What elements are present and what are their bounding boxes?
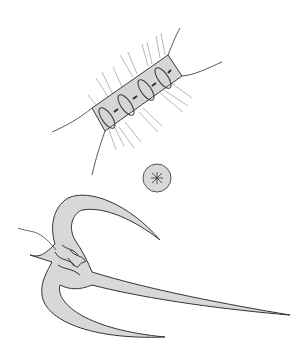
illustration-canvas — [0, 0, 308, 364]
plankton-drawing — [0, 0, 308, 364]
chain-diatom — [52, 28, 222, 175]
round-cell — [143, 164, 171, 192]
three-horned-dinoflagellate — [18, 195, 290, 337]
